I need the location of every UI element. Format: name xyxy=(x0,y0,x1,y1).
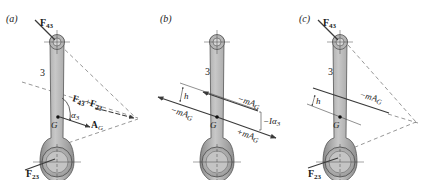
label-h-b: h xyxy=(184,91,189,101)
center-of-mass-g-b xyxy=(215,115,219,119)
connecting-rod-b xyxy=(193,30,241,180)
label-h-c: h xyxy=(316,96,321,106)
label-neg-mag-left: −mAG xyxy=(169,104,195,123)
label-f23-a: F23 xyxy=(26,168,40,180)
panel-tag-b: (b) xyxy=(160,13,172,25)
label-g-c: G xyxy=(333,120,340,130)
center-of-mass-g-c xyxy=(338,115,342,119)
link-number-b: 3 xyxy=(205,66,210,77)
label-resultant-f43-f23: F43+F23 xyxy=(71,93,105,113)
label-couple: −Iα3 xyxy=(263,116,281,128)
panel-tag-c: (c) xyxy=(299,13,311,25)
label-pos-mag: +mAG xyxy=(235,126,261,145)
label-g-a: G xyxy=(51,120,58,130)
connecting-rod-a xyxy=(33,30,81,180)
couple-bracket xyxy=(259,112,261,130)
panel-b: (b) 3 h −mAG −mAG +mAG −Iα3 G xyxy=(158,13,281,180)
label-g-b: G xyxy=(210,120,217,130)
link-number-a: 3 xyxy=(40,67,45,78)
label-neg-mag-top: −mAG xyxy=(236,93,262,112)
connecting-rod-c xyxy=(316,30,364,180)
construction-lines-a xyxy=(22,45,138,145)
panel-tag-a: (a) xyxy=(6,13,18,25)
h-dimension-b xyxy=(180,87,183,102)
label-ag: AG xyxy=(91,120,103,132)
h-dimension-c xyxy=(312,95,315,106)
label-f43-c: F43 xyxy=(323,17,337,30)
panel-c: (c) F43 3 h −mAG G F23 xyxy=(299,13,418,180)
connecting-rod-free-body-diagrams: (a) F43 3 F43+F23 α3 AG G F23 (b) xyxy=(0,0,433,180)
link-number-c: 3 xyxy=(328,66,333,77)
panel-a: (a) F43 3 F43+F23 α3 AG G F23 xyxy=(6,13,138,180)
label-f23-c: F23 xyxy=(308,168,322,180)
label-alpha3: α3 xyxy=(71,110,80,122)
label-f43-a: F43 xyxy=(40,17,54,30)
center-of-mass-g-a xyxy=(56,115,60,119)
